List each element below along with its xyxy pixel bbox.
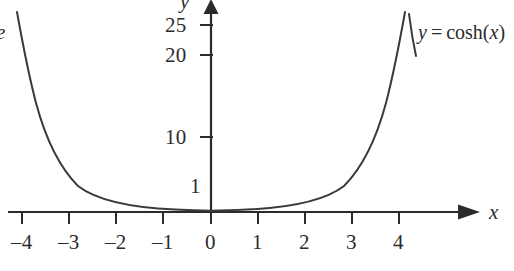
curve-label-tick-stroke: [409, 14, 416, 56]
cropped-left-text-fragment: e: [0, 22, 5, 43]
x-tick-label-minus1: –1: [152, 232, 173, 253]
cosh-graph-figure: e y x 25 20 10 1 –4 –3 –2 –1 0 1 2 3 4 y…: [0, 0, 514, 271]
x-tick-label-minus4: –4: [11, 232, 32, 253]
y-tick-label-1: 1: [190, 176, 201, 197]
y-tick-label-25: 25: [165, 15, 186, 36]
curve-label-y: y: [418, 21, 427, 43]
x-axis-arrowhead: [458, 205, 480, 220]
x-tick-label-0: 0: [205, 232, 216, 253]
y-tick-label-10: 10: [165, 127, 186, 148]
x-tick-label-minus3: –3: [58, 232, 79, 253]
y-axis-label: y: [180, 0, 189, 12]
x-tick-label-4: 4: [393, 232, 404, 253]
curve-equation-label: y = cosh(x): [418, 22, 505, 42]
curve-label-paren-close: ): [498, 21, 505, 43]
x-tick-label-minus2: –2: [105, 232, 126, 253]
curve-label-equals-cosh: = cosh(: [427, 21, 490, 43]
x-tick-label-2: 2: [299, 232, 310, 253]
x-tick-label-1: 1: [252, 232, 263, 253]
y-tick-label-20: 20: [165, 45, 186, 66]
x-tick-label-3: 3: [346, 232, 357, 253]
x-axis-label: x: [489, 202, 498, 223]
y-axis-arrowhead: [204, 0, 219, 14]
